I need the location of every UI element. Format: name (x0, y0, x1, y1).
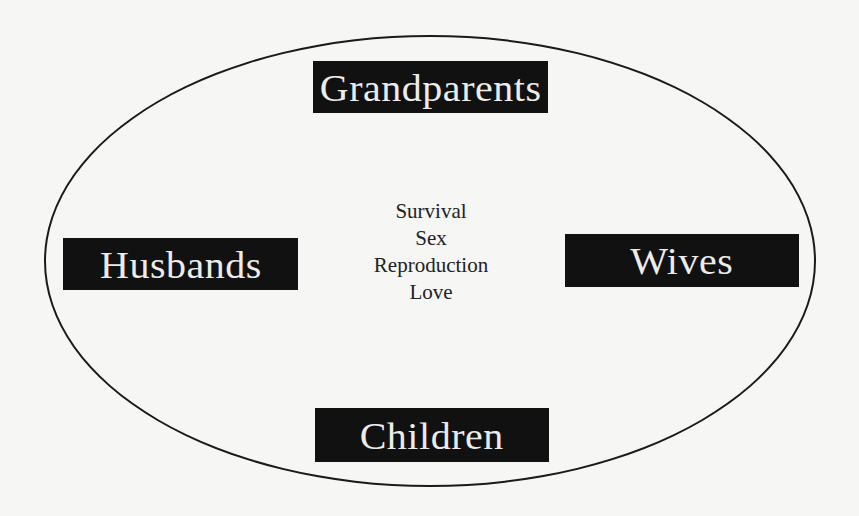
family-diagram: Grandparents Husbands Wives Children Sur… (0, 0, 859, 516)
grandparents-box: Grandparents (313, 61, 548, 113)
husbands-box: Husbands (63, 238, 298, 290)
wives-label: Wives (630, 241, 733, 280)
center-values-list: Survival Sex Reproduction Love (331, 198, 531, 306)
wives-box: Wives (565, 234, 799, 287)
children-box: Children (315, 408, 549, 462)
grandparents-label: Grandparents (320, 68, 542, 107)
center-value-love: Love (331, 279, 531, 306)
children-label: Children (360, 416, 504, 455)
center-value-survival: Survival (331, 198, 531, 225)
center-value-sex: Sex (331, 225, 531, 252)
husbands-label: Husbands (100, 245, 262, 284)
center-value-reproduction: Reproduction (331, 252, 531, 279)
